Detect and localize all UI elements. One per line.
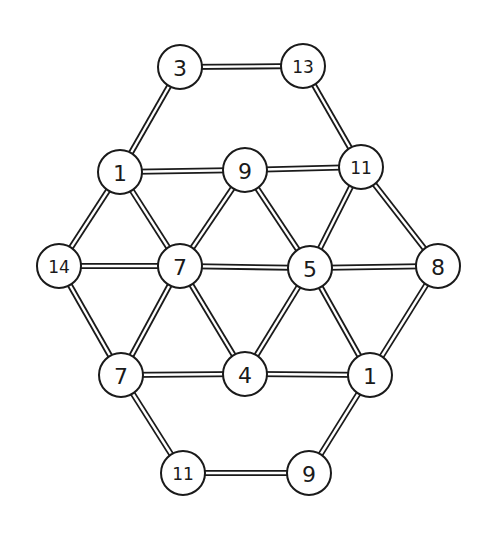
graph-node: 9 bbox=[287, 451, 331, 495]
graph-node: 3 bbox=[158, 45, 202, 89]
node-label: 8 bbox=[431, 255, 445, 280]
graph-node: 11 bbox=[161, 451, 205, 495]
graph-node: 9 bbox=[223, 148, 267, 192]
node-label: 9 bbox=[302, 462, 316, 487]
graph-node: 11 bbox=[339, 145, 383, 189]
node-label: 3 bbox=[173, 56, 187, 81]
graph-node: 13 bbox=[281, 44, 325, 88]
node-label: 13 bbox=[292, 57, 314, 77]
node-label: 4 bbox=[238, 363, 252, 388]
graph-node: 7 bbox=[158, 244, 202, 288]
node-label: 11 bbox=[172, 464, 194, 484]
node-label: 7 bbox=[173, 255, 187, 280]
graph-node: 1 bbox=[348, 353, 392, 397]
lattice-graph-diagram: 313191114758741119 bbox=[0, 0, 493, 533]
graph-node: 14 bbox=[37, 244, 81, 288]
node-label: 14 bbox=[48, 257, 70, 277]
node-label: 7 bbox=[114, 364, 128, 389]
graph-node: 5 bbox=[288, 246, 332, 290]
graph-node: 4 bbox=[223, 352, 267, 396]
node-label: 1 bbox=[113, 161, 127, 186]
graph-node: 8 bbox=[416, 244, 460, 288]
node-label: 9 bbox=[238, 159, 252, 184]
edges-layer bbox=[59, 66, 438, 473]
graph-node: 1 bbox=[98, 150, 142, 194]
node-label: 1 bbox=[363, 364, 377, 389]
node-label: 11 bbox=[350, 158, 372, 178]
graph-node: 7 bbox=[99, 353, 143, 397]
node-label: 5 bbox=[303, 257, 317, 282]
